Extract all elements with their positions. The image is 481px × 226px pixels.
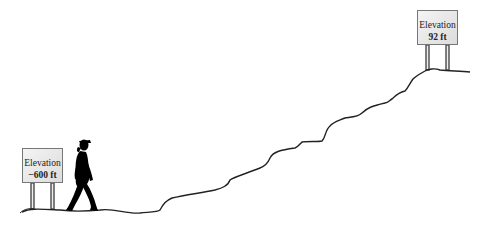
sign-low-value: −600 ft bbox=[23, 169, 62, 181]
walking-person-icon bbox=[66, 140, 98, 212]
elevation-diagram: Elevation −600 ft Elevation 92 ft bbox=[0, 0, 481, 226]
trail-drawing bbox=[0, 0, 481, 226]
sign-low-label: Elevation bbox=[23, 158, 62, 169]
sign-low-posts bbox=[31, 45, 449, 209]
elevation-sign-high: Elevation 92 ft bbox=[417, 10, 458, 45]
sign-high-value: 92 ft bbox=[418, 31, 457, 43]
elevation-sign-low: Elevation −600 ft bbox=[22, 148, 63, 183]
sign-high-label: Elevation bbox=[418, 20, 457, 31]
